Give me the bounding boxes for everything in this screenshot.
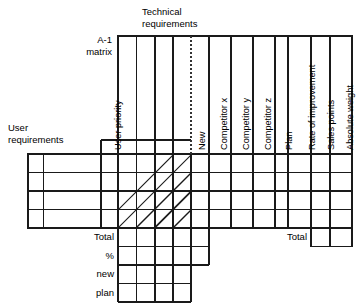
qfd-a1-matrix-diagram: Technical requirements A-1 matrix User r… <box>0 0 358 306</box>
column-header-plan: Plan <box>284 132 294 150</box>
a1-matrix-label: A-1 matrix <box>20 34 112 57</box>
column-header-rate-of-improvement: Rate of improvement <box>307 65 317 150</box>
column-header-competitor-x: Competitor x <box>219 98 229 150</box>
column-header-user-priority: User priority <box>113 100 123 150</box>
user-requirements-line2: requirements <box>8 134 63 145</box>
technical-requirements-title: Technical requirements <box>142 6 252 29</box>
column-header-new: New <box>197 132 207 150</box>
column-header-absolute-weight: Absolute weight <box>345 85 355 150</box>
footer-row-label-new: new <box>40 268 114 280</box>
column-header-competitor-z: Competitor z <box>263 98 273 150</box>
a1-matrix-line2: matrix <box>86 46 112 57</box>
footer-row-label-total: Total <box>40 231 114 243</box>
user-requirements-label: User requirements <box>8 122 100 145</box>
footer-row-label-plan: plan <box>40 287 114 299</box>
technical-requirements-line1: Technical <box>142 6 182 17</box>
footer-row-label-percent: % <box>40 250 114 262</box>
user-requirements-line1: User <box>8 122 28 133</box>
a1-matrix-line1: A-1 <box>97 34 112 45</box>
column-header-competitor-y: Competitor y <box>241 98 251 150</box>
column-header-sales-points: Sales points <box>326 100 336 150</box>
technical-requirements-line2: requirements <box>142 18 197 29</box>
right-footer-label-total: Total <box>237 231 307 243</box>
